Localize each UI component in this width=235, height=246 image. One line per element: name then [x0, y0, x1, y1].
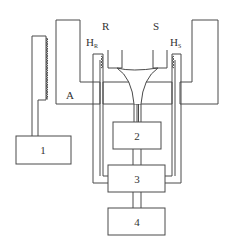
label-s: S [153, 20, 159, 32]
label-a: A [66, 89, 74, 101]
label-hs: HS [170, 36, 181, 49]
label-hr: HR [86, 36, 98, 49]
heater-hs [165, 54, 181, 183]
block-a [56, 20, 218, 104]
label-r: R [102, 20, 110, 32]
box-4-label: 4 [134, 216, 140, 228]
cell-r [108, 50, 122, 68]
box-1: 1 [16, 136, 71, 164]
box-3-label: 3 [134, 173, 140, 185]
heater-hr [93, 54, 108, 183]
outer-heater [32, 36, 48, 136]
apparatus-diagram: 1 2 3 4 A R S HR HS [0, 0, 235, 246]
cell-s [153, 50, 167, 68]
box-2-label: 2 [134, 130, 140, 142]
box-4: 4 [108, 208, 165, 235]
box-3: 3 [108, 165, 165, 208]
box-2: 2 [113, 122, 161, 165]
box-1-label: 1 [40, 144, 46, 156]
